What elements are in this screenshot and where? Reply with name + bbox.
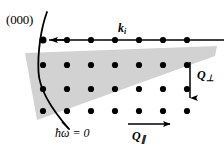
- lattice-point: [40, 86, 46, 92]
- lattice-point: [160, 37, 166, 43]
- lattice-point: [64, 62, 70, 68]
- lattice-point: [64, 37, 70, 43]
- lattice-point: [40, 108, 46, 114]
- lattice-point: [64, 108, 70, 114]
- q-parallel-subscript: ∥: [141, 134, 146, 144]
- q-perp-label: Q⊥: [197, 69, 214, 83]
- lattice-point: [112, 37, 118, 43]
- origin-label: (000): [6, 13, 33, 26]
- lattice-point-origin: [40, 37, 47, 44]
- lattice-point: [136, 62, 142, 68]
- scattering-diagram-figure: (000) ki ħω = 0 Q∥ Q⊥: [0, 0, 224, 147]
- ki-subscript: i: [124, 27, 126, 36]
- lattice-point: [88, 86, 94, 92]
- lattice-point: [88, 37, 94, 43]
- elastic-line-label: ħω = 0: [55, 127, 90, 139]
- lattice-point: [136, 108, 142, 114]
- lattice-point: [184, 86, 190, 92]
- q-perp-symbol: Q: [197, 68, 206, 82]
- incident-wavevector-label: ki: [118, 22, 126, 36]
- lattice-point: [40, 62, 46, 68]
- q-parallel-label: Q∥: [132, 130, 146, 144]
- lattice-point: [112, 86, 118, 92]
- lattice-point: [184, 108, 190, 114]
- lattice-point: [160, 62, 166, 68]
- lattice-point: [136, 37, 142, 43]
- lattice-point: [184, 37, 190, 43]
- lattice-point: [112, 62, 118, 68]
- lattice-point: [64, 86, 70, 92]
- lattice-point: [160, 86, 166, 92]
- lattice-point: [88, 108, 94, 114]
- lattice-point: [88, 62, 94, 68]
- diagram-canvas: [0, 0, 224, 147]
- q-parallel-symbol: Q: [132, 129, 141, 143]
- lattice-point: [112, 108, 118, 114]
- lattice-point: [136, 86, 142, 92]
- q-perp-subscript: ⊥: [206, 73, 214, 83]
- lattice-point: [184, 62, 190, 68]
- lattice-point: [160, 108, 166, 114]
